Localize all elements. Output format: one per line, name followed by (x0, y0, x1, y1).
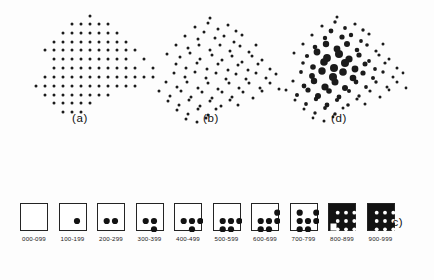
legend-dot (236, 218, 242, 224)
scatter-point (199, 58, 202, 61)
scatter-point (302, 84, 307, 89)
scatter-point (228, 82, 231, 85)
scatter-point (335, 50, 343, 58)
scatter-point (116, 76, 119, 79)
scatter-point (241, 61, 244, 64)
scatter-point (323, 41, 329, 47)
legend-symbol-row: 000-099100-199200-299300-399400-499500-5… (20, 203, 395, 242)
scatter-point (237, 104, 240, 107)
scatter-point (329, 29, 334, 34)
scatter-point (89, 76, 92, 79)
legend-lattice-hole (352, 227, 356, 231)
scatter-point (207, 82, 210, 85)
scatter-point (367, 32, 370, 35)
scatter-point (125, 58, 128, 61)
legend-lattice-hole (352, 219, 356, 223)
scatter-point (347, 89, 351, 93)
scatter-point (116, 67, 119, 70)
scatter-point (71, 76, 74, 79)
scatter-point (187, 113, 190, 116)
legend-lattice-hole (383, 227, 387, 231)
scatter-point (80, 85, 83, 88)
scatter-point (89, 23, 92, 26)
scatter-point (341, 59, 349, 67)
legend-symbol-box (97, 203, 125, 231)
scatter-point (215, 108, 218, 111)
scatter-point (310, 64, 316, 70)
scatter-point (116, 85, 119, 88)
legend-dot (258, 226, 264, 232)
scatter-plot-a (28, 12, 168, 124)
scatter-point (71, 32, 74, 35)
scatter-point (166, 53, 169, 56)
density-legend: 000-099100-199200-299300-399400-499500-5… (20, 203, 420, 259)
scatter-point (107, 85, 110, 88)
scatter-point (255, 44, 258, 47)
scatter-point (203, 31, 206, 34)
scatter-point (245, 78, 248, 81)
scatter-point (209, 100, 212, 103)
scatter-point (44, 49, 47, 52)
scatter-point (225, 78, 228, 81)
scatter-point (392, 76, 395, 79)
legend-dot (296, 210, 302, 216)
scatter-point (158, 90, 161, 93)
scatter-point (89, 58, 92, 61)
scatter-point (201, 91, 204, 94)
scatter-point (107, 76, 110, 79)
scatter-point (379, 96, 382, 99)
scatter-point (364, 103, 367, 106)
panel-c-label: (c) (388, 216, 403, 228)
scatter-point (53, 76, 56, 79)
scatter-point (80, 32, 83, 35)
scatter-point (261, 90, 264, 93)
scatter-point (360, 70, 365, 75)
scatter-point (98, 85, 101, 88)
scatter-point (116, 32, 119, 35)
scatter-point (342, 85, 348, 91)
scatter-point (291, 79, 294, 82)
scatter-point (62, 76, 65, 79)
legend-symbol-dots (137, 204, 165, 232)
scatter-point (116, 49, 119, 52)
scatter-point (62, 41, 65, 44)
legend-dot (189, 218, 195, 224)
scatter-point (198, 44, 201, 47)
scatter-point (176, 86, 179, 89)
scatter-point (125, 41, 128, 44)
scatter-point (221, 59, 224, 62)
scatter-point (116, 58, 119, 61)
scatter-point (185, 67, 188, 70)
panel-a-label: (a) (72, 112, 88, 124)
scatter-point (346, 103, 350, 107)
scatter-point (134, 67, 137, 70)
scatter-point (125, 76, 128, 79)
scatter-point (62, 85, 65, 88)
scatter-point (107, 94, 110, 97)
scatter-point (396, 81, 399, 84)
scatter-point (339, 34, 344, 39)
scatter-point (62, 102, 65, 105)
scatter-point (209, 17, 212, 20)
scatter-point (353, 22, 356, 25)
legend-lattice-hole (336, 227, 340, 231)
scatter-point (169, 95, 172, 98)
scatter-point (239, 45, 242, 48)
scatter-point (80, 23, 83, 26)
scatter-point (361, 28, 364, 31)
scatter-point (367, 59, 371, 63)
legend-symbol-box (251, 203, 279, 231)
figure-root: (a) (b) (d) 000-099100-199200-299300-399… (0, 0, 434, 280)
scatter-point (188, 99, 191, 102)
scatter-point (134, 49, 137, 52)
scatter-point (333, 20, 336, 23)
scatter-point (405, 87, 408, 90)
scatter-point (178, 104, 181, 107)
scatter-point (352, 66, 359, 73)
legend-dot (296, 226, 302, 232)
scatter-point (44, 76, 47, 79)
scatter-point (134, 76, 137, 79)
scatter-point (332, 79, 339, 86)
legend-lattice-hole (374, 211, 378, 215)
legend-range-label: 800-899 (330, 235, 354, 242)
